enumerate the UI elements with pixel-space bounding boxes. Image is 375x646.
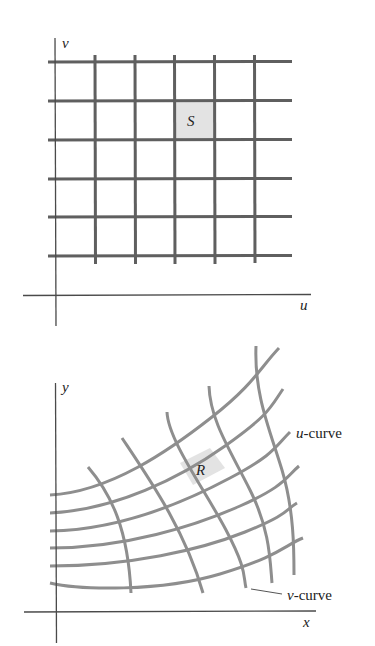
uv-plane-panel: v u S (23, 35, 311, 326)
v-curves (88, 346, 294, 593)
grid-vertical-line (175, 55, 176, 264)
v-curve-leader-line (251, 589, 282, 594)
grid-vertical-line (215, 55, 216, 264)
region-r-label: R (195, 462, 205, 478)
u-curve-label-suffix: -curve (304, 425, 343, 441)
y-axis-label: y (60, 379, 69, 395)
x-axis-label: x (302, 614, 310, 630)
y-axis (56, 383, 57, 643)
v-axis-label: v (62, 35, 69, 51)
uv-grid (48, 55, 292, 264)
x-axis (24, 611, 316, 612)
u-axis (23, 295, 311, 296)
u-curve (50, 348, 279, 495)
u-curve-label: u-curve (296, 425, 342, 441)
v-curve-label-suffix: -curve (294, 587, 333, 603)
v-curve-label: v-curve (287, 587, 332, 603)
grid-vertical-line (255, 55, 256, 263)
grid-vertical-line (135, 55, 136, 264)
v-axis (55, 38, 56, 326)
region-s-label: S (187, 113, 195, 129)
xy-plane-panel: y x R u-curve v-curve (24, 346, 342, 643)
u-axis-label: u (300, 297, 308, 313)
grid-vertical-line (95, 55, 96, 264)
transformation-figure: v u S y x R (0, 0, 375, 646)
u-curve-label-var: u (296, 425, 304, 441)
